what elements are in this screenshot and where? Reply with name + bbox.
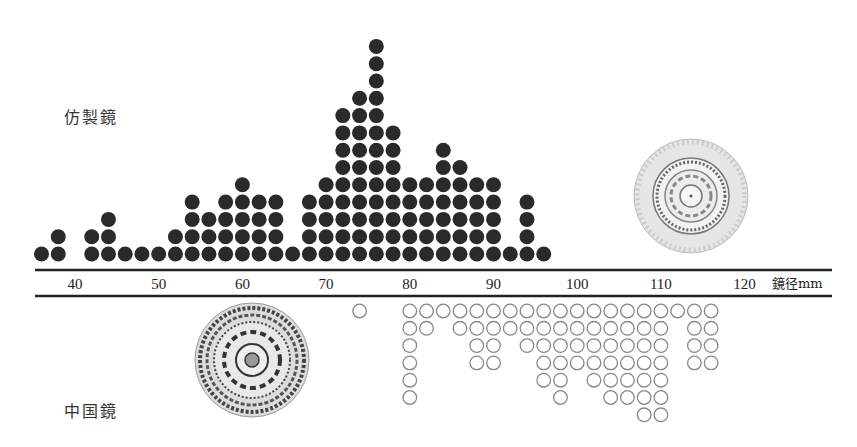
imitation-mirror-dot xyxy=(453,212,468,227)
x-tick-label: 90 xyxy=(486,276,501,292)
chinese-mirror-dot xyxy=(637,373,651,387)
imitation-mirror-dot xyxy=(168,229,183,244)
imitation-mirror-dot xyxy=(419,247,434,262)
imitation-mirror-dot xyxy=(235,247,250,262)
imitation-mirror-dot xyxy=(369,143,384,158)
chinese-mirror-dot xyxy=(470,356,484,370)
imitation-mirror-dots xyxy=(34,39,551,262)
imitation-mirror-dot xyxy=(436,229,451,244)
imitation-mirror-dot xyxy=(486,177,501,192)
imitation-mirror-dot xyxy=(335,247,350,262)
imitation-mirror-dot xyxy=(486,195,501,210)
imitation-mirror-dot xyxy=(419,177,434,192)
chinese-mirror-dot xyxy=(537,339,551,353)
imitation-mirror-dot xyxy=(185,212,200,227)
chinese-mirror-dot xyxy=(520,304,534,318)
chinese-mirror-dot xyxy=(654,391,668,405)
chinese-mirror-dots xyxy=(353,304,718,421)
imitation-mirror-dot xyxy=(352,143,367,158)
imitation-mirror-dot xyxy=(369,125,384,140)
chinese-mirror-dot xyxy=(537,304,551,318)
imitation-mirror-dot xyxy=(235,177,250,192)
imitation-mirror-dot xyxy=(268,247,283,262)
dot-histogram-chart: 405060708090100110120 鏡径mm xyxy=(0,0,857,447)
chinese-mirror-dot xyxy=(654,304,668,318)
imitation-mirror-dot xyxy=(386,143,401,158)
chinese-mirror-dot xyxy=(403,373,417,387)
imitation-mirror-dot xyxy=(51,247,66,262)
imitation-mirror-dot xyxy=(218,195,233,210)
chinese-mirror-dot xyxy=(637,356,651,370)
imitation-mirror-dot xyxy=(436,143,451,158)
imitation-mirror-dot xyxy=(436,247,451,262)
imitation-mirror-dot xyxy=(319,177,334,192)
imitation-mirror-dot xyxy=(201,229,216,244)
imitation-mirror-dot xyxy=(201,247,216,262)
x-tick-label: 110 xyxy=(650,276,672,292)
chinese-mirror-label: 中国鏡 xyxy=(64,398,118,422)
imitation-mirror-dot xyxy=(436,195,451,210)
imitation-mirror-dot xyxy=(419,195,434,210)
imitation-mirror-dot xyxy=(335,143,350,158)
chinese-mirror-dot xyxy=(520,322,534,336)
chinese-mirror-dot xyxy=(587,356,601,370)
imitation-mirror-dot xyxy=(453,177,468,192)
imitation-mirror-dot xyxy=(402,177,417,192)
chinese-mirror-dot xyxy=(704,322,718,336)
imitation-mirror-dot xyxy=(369,39,384,54)
chinese-mirror-dot xyxy=(554,391,568,405)
imitation-mirror-dot xyxy=(185,195,200,210)
imitation-mirror-dot xyxy=(486,229,501,244)
imitation-mirror-dot xyxy=(335,108,350,123)
chinese-mirror-dot xyxy=(621,322,635,336)
imitation-mirror-dot xyxy=(486,212,501,227)
imitation-mirror-dot xyxy=(101,229,116,244)
chinese-mirror-dot xyxy=(688,339,702,353)
imitation-mirror-dot xyxy=(268,212,283,227)
imitation-mirror-dot xyxy=(218,212,233,227)
imitation-mirror-dot xyxy=(453,160,468,175)
imitation-mirror-dot xyxy=(252,229,267,244)
chinese-mirror-dot xyxy=(604,391,618,405)
imitation-mirror-label: 仿製鏡 xyxy=(64,104,118,128)
chinese-mirror-dot xyxy=(604,339,618,353)
imitation-mirror-dot xyxy=(151,247,166,262)
chinese-mirror-dot xyxy=(637,408,651,422)
imitation-mirror-dot xyxy=(335,212,350,227)
chinese-mirror-dot xyxy=(554,373,568,387)
chinese-mirror-dot xyxy=(621,304,635,318)
chinese-mirror-dot xyxy=(587,304,601,318)
chinese-mirror-dot xyxy=(704,356,718,370)
x-tick-label: 70 xyxy=(319,276,334,292)
imitation-mirror-dot xyxy=(319,229,334,244)
imitation-mirror-dot xyxy=(235,212,250,227)
imitation-mirror-dot xyxy=(168,247,183,262)
imitation-mirror-dot xyxy=(369,160,384,175)
imitation-mirror-dot xyxy=(503,247,518,262)
imitation-mirror-dot xyxy=(302,247,317,262)
chinese-mirror-dot xyxy=(704,339,718,353)
imitation-mirror-dot xyxy=(486,247,501,262)
imitation-mirror-dot xyxy=(469,247,484,262)
chinese-mirror-dot xyxy=(654,373,668,387)
imitation-mirror-dot xyxy=(235,195,250,210)
chinese-mirror-dot xyxy=(487,339,501,353)
imitation-mirror-dot xyxy=(218,247,233,262)
imitation-mirror-dot xyxy=(469,229,484,244)
imitation-mirror-dot xyxy=(386,125,401,140)
chinese-mirror-dot xyxy=(654,356,668,370)
imitation-mirror-dot xyxy=(302,195,317,210)
imitation-mirror-dot xyxy=(469,212,484,227)
chinese-mirror-dot xyxy=(554,304,568,318)
imitation-mirror-dot xyxy=(302,212,317,227)
x-tick-label: 120 xyxy=(733,276,756,292)
imitation-mirror-dot xyxy=(453,229,468,244)
imitation-mirror-dot xyxy=(352,125,367,140)
x-tick-label: 60 xyxy=(235,276,250,292)
chinese-mirror-dot xyxy=(537,356,551,370)
imitation-mirror-dot xyxy=(335,195,350,210)
imitation-mirror-dot xyxy=(335,229,350,244)
chinese-mirror-dot xyxy=(537,322,551,336)
imitation-mirror-dot xyxy=(369,177,384,192)
imitation-mirror-dot xyxy=(252,195,267,210)
